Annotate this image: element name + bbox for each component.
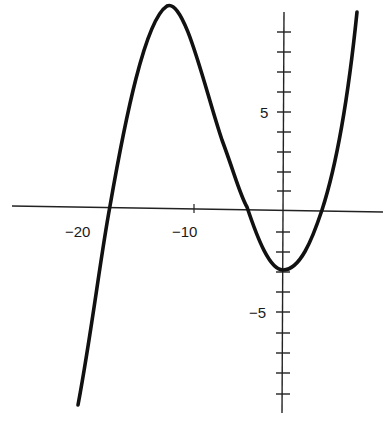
function-curve xyxy=(78,6,357,405)
y-tick-label-5: 5 xyxy=(260,104,268,121)
y-tick-label-neg5: −5 xyxy=(249,304,266,321)
function-graph: −20 −10 5 −5 xyxy=(0,0,385,425)
x-tick-label-neg20: −20 xyxy=(65,223,90,240)
x-axis xyxy=(12,206,383,212)
x-tick-label-neg10: −10 xyxy=(172,223,197,240)
